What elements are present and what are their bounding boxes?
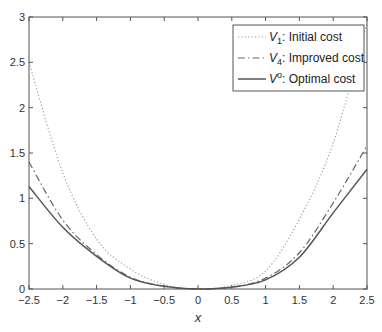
x-tick-label: 0 xyxy=(195,294,201,306)
legend-label-3: Vo: Optimal cost xyxy=(269,70,356,86)
y-tick-label: 0.5 xyxy=(10,238,25,250)
x-tick-label: 1.5 xyxy=(292,294,307,306)
y-tick-label: 0 xyxy=(19,283,25,295)
cost-function-chart: −2.5−2−1.5−1−0.500.511.522.5 00.511.522.… xyxy=(0,0,382,332)
x-tick-label: 2 xyxy=(330,294,336,306)
x-tick-labels: −2.5−2−1.5−1−0.500.511.522.5 xyxy=(18,294,375,306)
y-tick-label: 3 xyxy=(19,11,25,23)
x-tick-label: 2.5 xyxy=(359,294,374,306)
y-tick-labels: 00.511.522.53 xyxy=(10,11,25,295)
y-tick-label: 2.5 xyxy=(10,56,25,68)
legend-label-2: V4: Improved cost xyxy=(269,51,365,67)
y-tick-label: 1 xyxy=(19,192,25,204)
x-tick-label: −2 xyxy=(57,294,70,306)
x-tick-label: −0.5 xyxy=(153,294,175,306)
x-tick-label: −1 xyxy=(124,294,137,306)
legend: V1: Initial costV4: Improved costVo: Opt… xyxy=(233,25,365,91)
x-axis-label: x xyxy=(194,310,202,325)
y-tick-label: 2 xyxy=(19,102,25,114)
y-tick-label: 1.5 xyxy=(10,147,25,159)
x-tick-label: −2.5 xyxy=(18,294,40,306)
x-tick-label: −1.5 xyxy=(86,294,108,306)
x-tick-label: 1 xyxy=(263,294,269,306)
series-line-2 xyxy=(29,146,367,289)
x-tick-label: 0.5 xyxy=(224,294,239,306)
